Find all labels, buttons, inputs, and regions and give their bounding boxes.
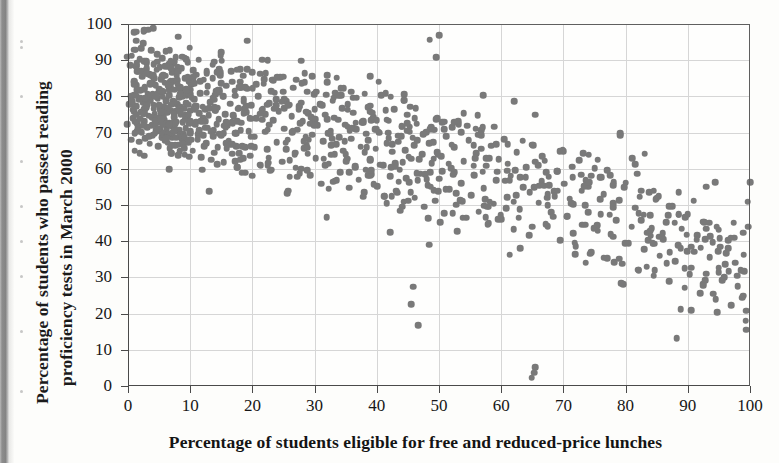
scatter-point bbox=[133, 37, 140, 44]
scatter-point bbox=[432, 197, 439, 204]
scatter-point bbox=[266, 122, 273, 129]
scatter-point bbox=[451, 119, 458, 126]
scatter-point bbox=[666, 249, 673, 256]
gridline-horizontal bbox=[128, 205, 750, 206]
scatter-point bbox=[741, 268, 748, 275]
scatter-point bbox=[616, 256, 623, 263]
scatter-point bbox=[298, 57, 305, 64]
scatter-point bbox=[186, 137, 193, 144]
x-tick-mark bbox=[315, 386, 316, 393]
scatter-point bbox=[283, 146, 290, 153]
scatter-point bbox=[265, 154, 272, 161]
scatter-point bbox=[475, 132, 482, 139]
scan-speckle bbox=[20, 390, 23, 393]
scatter-point bbox=[638, 217, 645, 224]
scatter-point bbox=[168, 150, 175, 157]
scatter-point bbox=[381, 193, 388, 200]
scatter-point bbox=[286, 157, 293, 164]
scatter-point bbox=[211, 104, 218, 111]
scatter-point bbox=[360, 120, 367, 127]
scatter-point bbox=[346, 169, 353, 176]
scatter-point bbox=[134, 87, 141, 94]
scatter-point bbox=[334, 75, 341, 82]
scatter-point bbox=[747, 179, 754, 186]
scatter-point bbox=[641, 246, 648, 253]
scatter-point bbox=[423, 176, 430, 183]
y-tick-label: 70 bbox=[95, 123, 112, 143]
scatter-point bbox=[545, 173, 552, 180]
scatter-point bbox=[610, 204, 617, 211]
scatter-point bbox=[324, 79, 331, 86]
scatter-point bbox=[629, 223, 636, 230]
scatter-point bbox=[677, 306, 684, 313]
y-axis-title-line1: Percentage of students who passed readin… bbox=[32, 81, 53, 404]
scatter-point bbox=[511, 98, 518, 105]
scan-speckle bbox=[20, 160, 23, 163]
scatter-point bbox=[373, 117, 380, 124]
scatter-point bbox=[294, 174, 301, 181]
scatter-point bbox=[352, 164, 359, 171]
y-tick-label: 60 bbox=[95, 159, 112, 179]
scatter-point bbox=[716, 235, 723, 242]
scatter-point bbox=[124, 121, 131, 128]
scatter-point bbox=[244, 66, 251, 73]
figure-page: Percentage of students who passed readin… bbox=[0, 0, 779, 463]
y-tick-label: 90 bbox=[95, 50, 112, 70]
scatter-point bbox=[361, 149, 368, 156]
scatter-point bbox=[160, 71, 167, 78]
scatter-point bbox=[269, 77, 276, 84]
scatter-point bbox=[443, 186, 450, 193]
scatter-point bbox=[195, 56, 202, 63]
scatter-point bbox=[183, 87, 190, 94]
scatter-point bbox=[203, 89, 210, 96]
y-tick-mark bbox=[121, 277, 128, 278]
scatter-point bbox=[434, 151, 441, 158]
scatter-point bbox=[134, 60, 141, 67]
scatter-point bbox=[240, 72, 247, 79]
scatter-point bbox=[166, 47, 173, 54]
scatter-point bbox=[405, 153, 412, 160]
scatter-point bbox=[744, 198, 751, 205]
scatter-point bbox=[363, 130, 370, 137]
scatter-point bbox=[179, 53, 186, 60]
scatter-point bbox=[331, 115, 338, 122]
scatter-point bbox=[710, 290, 717, 297]
scatter-point bbox=[740, 229, 747, 236]
scatter-point bbox=[745, 223, 752, 230]
scatter-point bbox=[482, 196, 489, 203]
scatter-point bbox=[717, 243, 724, 250]
scatter-point bbox=[252, 144, 259, 151]
scatter-point bbox=[544, 191, 551, 198]
scatter-point bbox=[441, 126, 448, 133]
scatter-point bbox=[702, 236, 709, 243]
scatter-point bbox=[743, 327, 750, 334]
scatter-point bbox=[523, 164, 530, 171]
y-tick-mark bbox=[121, 350, 128, 351]
scan-edge-fade bbox=[9, 0, 14, 463]
scatter-point bbox=[713, 223, 720, 230]
scatter-point bbox=[420, 131, 427, 138]
scatter-point bbox=[656, 193, 663, 200]
scatter-point bbox=[414, 137, 421, 144]
scatter-point bbox=[443, 133, 450, 140]
scatter-point bbox=[663, 260, 670, 267]
scatter-point bbox=[403, 175, 410, 182]
scatter-point bbox=[140, 123, 147, 130]
scatter-point bbox=[348, 135, 355, 142]
scatter-point bbox=[421, 204, 428, 211]
scatter-point bbox=[400, 159, 407, 166]
scatter-point bbox=[622, 240, 629, 247]
scatter-point bbox=[520, 184, 527, 191]
scan-edge-artifact bbox=[0, 0, 9, 463]
scatter-point bbox=[234, 105, 241, 112]
y-tick-label: 10 bbox=[95, 340, 112, 360]
scatter-point bbox=[389, 141, 396, 148]
scatter-point bbox=[436, 175, 443, 182]
scatter-point bbox=[153, 93, 160, 100]
scatter-point bbox=[202, 118, 209, 125]
scatter-point bbox=[703, 225, 710, 232]
scatter-point bbox=[458, 180, 465, 187]
scatter-point bbox=[218, 52, 225, 59]
scatter-point bbox=[365, 137, 372, 144]
scatter-point bbox=[740, 251, 747, 258]
